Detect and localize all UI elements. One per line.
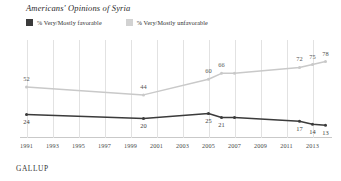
data-label: 20	[140, 122, 147, 129]
data-label: 72	[296, 55, 303, 62]
x-tick-1991: 1991	[20, 142, 33, 149]
data-label: 75	[309, 53, 316, 60]
series-line--very-mostly-unfavorable	[27, 62, 326, 95]
data-label: 13	[322, 129, 329, 136]
data-label: 21	[218, 121, 225, 128]
data-point	[25, 113, 28, 116]
data-point	[298, 66, 301, 69]
data-label: 24	[23, 118, 30, 125]
x-tick-1999: 1999	[124, 142, 137, 149]
legend-item-unfavorable: % Very/Mostly unfavorable	[126, 19, 208, 26]
data-point	[324, 124, 327, 127]
data-point	[311, 63, 314, 66]
legend-label-unfavorable: % Very/Mostly unfavorable	[137, 19, 208, 26]
data-point	[142, 93, 145, 96]
x-tick-1993: 1993	[46, 142, 59, 149]
x-tick-2001: 2001	[150, 142, 163, 149]
series-line--very-mostly-favorable	[27, 114, 326, 126]
source-label: GALLUP	[16, 164, 49, 173]
data-label: 14	[309, 128, 316, 135]
data-point	[233, 72, 236, 75]
data-label: 78	[322, 50, 329, 57]
data-label: 60	[205, 67, 212, 74]
data-point	[220, 116, 223, 119]
data-point	[311, 123, 314, 126]
data-point	[220, 72, 223, 75]
x-tick-1995: 1995	[72, 142, 85, 149]
data-point	[298, 120, 301, 123]
x-tick-2013: 2013	[306, 142, 319, 149]
data-point	[324, 60, 327, 63]
chart-legend: % Very/Mostly favorable % Very/Mostly un…	[26, 19, 208, 26]
series-canvas	[20, 40, 332, 138]
x-tick-2009: 2009	[254, 142, 267, 149]
data-label: 66	[218, 61, 225, 68]
x-tick-2011: 2011	[280, 142, 293, 149]
x-tick-2003: 2003	[176, 142, 189, 149]
gallup-line-chart: Americans' Opinions of Syria % Very/Most…	[0, 0, 341, 181]
legend-item-favorable: % Very/Mostly favorable	[26, 19, 102, 26]
data-point	[207, 112, 210, 115]
data-label: 52	[23, 75, 30, 82]
data-label: 25	[205, 117, 212, 124]
x-tick-2005: 2005	[202, 142, 215, 149]
data-point	[142, 117, 145, 120]
data-point	[25, 86, 28, 89]
data-point	[233, 116, 236, 119]
data-label: 44	[140, 83, 147, 90]
legend-swatch-unfavorable-icon	[126, 19, 133, 26]
page-title: Americans' Opinions of Syria	[26, 3, 130, 13]
x-axis-tick-labels: 1991199319951997199920012003200520072009…	[20, 142, 332, 154]
legend-swatch-favorable-icon	[26, 19, 33, 26]
plot-area: 2420252117141352446066727578	[20, 40, 332, 138]
data-point	[207, 78, 210, 81]
x-tick-1997: 1997	[98, 142, 111, 149]
data-label: 17	[296, 125, 303, 132]
x-tick-2007: 2007	[228, 142, 241, 149]
legend-label-favorable: % Very/Mostly favorable	[37, 19, 102, 26]
